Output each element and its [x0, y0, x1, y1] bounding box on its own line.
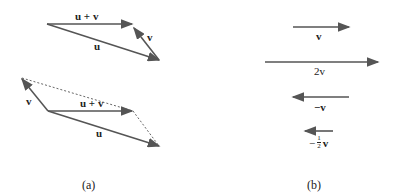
dotted-edge: [133, 111, 159, 146]
label-2v: 2v: [314, 65, 325, 77]
label-u-plus-v: u + v: [80, 97, 103, 109]
minus-sign: −: [309, 137, 315, 149]
fraction-half: 1 2: [317, 135, 321, 150]
parallelogram-rule: [22, 78, 159, 146]
label-neg-v: −v: [314, 101, 326, 113]
label-v: v: [316, 30, 322, 42]
label-u-plus-v: u + v: [75, 10, 98, 22]
dotted-edge: [22, 78, 133, 111]
vector-u: [48, 111, 159, 146]
label-u: u: [96, 127, 102, 139]
label-neg-half-v: − 1 2 v: [309, 135, 328, 150]
label-2v-text: 2v: [314, 65, 325, 77]
caption-a: (a): [82, 178, 95, 193]
vector-diagram: [0, 0, 393, 194]
vector-u: [47, 24, 159, 60]
triangle-rule: [47, 24, 159, 60]
caption-b: (b): [307, 178, 321, 193]
vector-symbol-v: v: [323, 137, 329, 149]
label-v: v: [26, 95, 32, 107]
scalar-multiples: [265, 27, 378, 131]
label-u: u: [94, 40, 100, 52]
label-v: v: [147, 31, 153, 43]
fraction-denominator: 2: [317, 143, 321, 150]
